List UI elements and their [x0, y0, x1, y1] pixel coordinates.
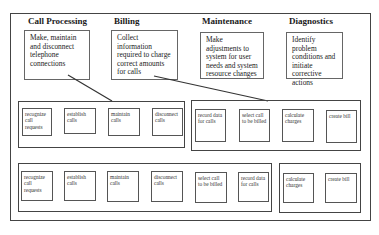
task-box: recognize call requests	[22, 108, 52, 136]
task-box: recognize call requests	[21, 171, 53, 201]
row2-first-group	[18, 163, 272, 212]
task-box: disconnect calls	[152, 108, 183, 136]
task-box: maintain calls	[107, 171, 139, 202]
task-box: calculate charges	[282, 109, 314, 142]
task-box: select call to be billed	[195, 172, 227, 203]
task-box: maintain calls	[108, 108, 140, 136]
task-box: establish calls	[64, 171, 96, 201]
task-box: select call to be billed	[239, 109, 270, 142]
task-box: create bill	[325, 173, 357, 203]
task-box: record data for calls	[195, 109, 226, 142]
task-box: calculate charges	[283, 173, 314, 203]
task-box: disconnect calls	[151, 171, 183, 202]
task-box: establish calls	[64, 108, 96, 134]
task-box: create bill	[326, 110, 357, 143]
task-box: record data for calls	[238, 172, 269, 202]
billing-connector	[154, 76, 268, 101]
call-processing-connector	[68, 75, 112, 101]
